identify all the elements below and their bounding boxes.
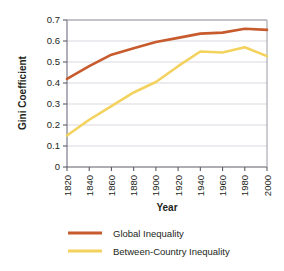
y-tick-label: 0.3 (47, 98, 60, 109)
y-axis: 00.10.20.30.40.50.60.7 (47, 14, 67, 172)
x-axis: 1820184018601880190019201940196019802000 (62, 167, 273, 196)
x-tick-label: 1940 (195, 175, 206, 196)
x-tick-label: 1960 (217, 175, 228, 196)
x-tick-label: 1860 (106, 175, 117, 196)
x-tick-label: 1980 (239, 175, 250, 196)
x-tick-label: 2000 (262, 175, 273, 196)
x-tick-label: 1820 (62, 175, 73, 196)
legend-label: Global Inequality (113, 228, 184, 239)
x-tick-label: 1920 (173, 175, 184, 196)
y-tick-label: 0 (55, 161, 60, 172)
y-axis-title: Gini Coefficient (17, 55, 28, 130)
x-tick-label: 1900 (150, 175, 161, 196)
line-chart: 00.10.20.30.40.50.60.7 18201840186018801… (0, 0, 284, 271)
x-tick-label: 1880 (128, 175, 139, 196)
x-axis-title: Year (156, 202, 177, 213)
y-tick-label: 0.6 (47, 35, 60, 46)
x-tick-label: 1840 (84, 175, 95, 196)
y-tick-label: 0.4 (47, 77, 60, 88)
y-tick-label: 0.7 (47, 14, 60, 25)
chart-legend: Global InequalityBetween-Country Inequal… (68, 228, 230, 257)
chart-figure: 00.10.20.30.40.50.60.7 18201840186018801… (0, 0, 284, 271)
plot-area-background (67, 20, 267, 167)
y-tick-label: 0.2 (47, 119, 60, 130)
legend-label: Between-Country Inequality (113, 246, 230, 257)
y-tick-label: 0.1 (47, 140, 60, 151)
y-tick-label: 0.5 (47, 56, 60, 67)
